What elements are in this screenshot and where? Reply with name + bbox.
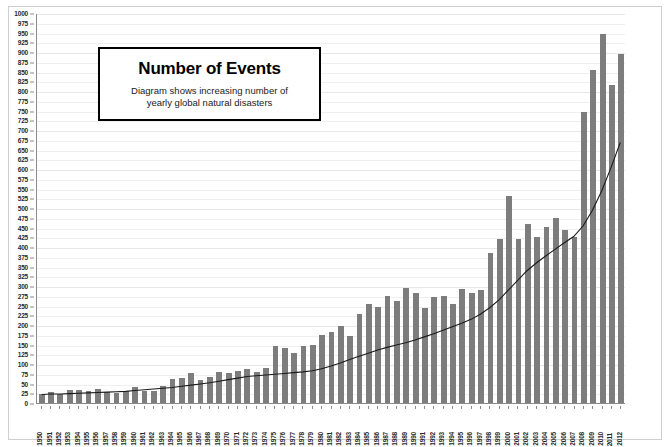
x-axis-tick-mark — [237, 406, 238, 409]
x-axis-tick-label: 1952 — [56, 432, 63, 446]
y-axis-tick-mark — [30, 92, 34, 93]
x-axis-tick-label: 1996 — [467, 432, 474, 446]
y-axis-tick-mark — [30, 296, 34, 297]
x-axis-tick-label: 2010 — [598, 432, 605, 446]
y-axis-tick-label: 25 — [21, 391, 28, 398]
y-axis-tick-mark — [30, 384, 34, 385]
x-axis-tick-label: 2006 — [561, 432, 568, 446]
y-axis-tick-mark — [30, 238, 34, 239]
x-axis-tick-label: 1998 — [486, 432, 493, 446]
y-axis-tick-label: 225 — [18, 313, 28, 320]
y-axis-tick-mark — [30, 287, 34, 288]
y-axis-tick-label: 375 — [18, 255, 28, 262]
x-axis-tick-label: 1956 — [93, 432, 100, 446]
y-axis-tick-label: 850 — [18, 69, 28, 76]
x-axis-tick-mark — [69, 406, 70, 409]
page-title: Number of Events — [138, 59, 280, 79]
x-axis-tick-mark — [50, 406, 51, 409]
y-axis-tick-label: 175 — [18, 333, 28, 340]
x-axis-tick-mark — [415, 406, 416, 409]
y-axis-tick-label: 525 — [18, 196, 28, 203]
y-axis-tick-mark — [30, 111, 34, 112]
x-axis-tick-mark — [546, 406, 547, 409]
x-axis-tick-mark — [125, 406, 126, 409]
x-axis-tick-label: 1961 — [140, 432, 147, 446]
x-axis-tick-mark — [517, 406, 518, 409]
x-axis-tick-mark — [293, 406, 294, 409]
y-axis-tick-mark — [30, 199, 34, 200]
y-axis-tick-mark — [30, 72, 34, 73]
x-axis-tick-label: 2000 — [505, 432, 512, 446]
x-axis-tick-mark — [321, 406, 322, 409]
y-axis-tick-mark — [30, 53, 34, 54]
x-axis-tick-label: 1991 — [420, 432, 427, 446]
y-axis-tick-mark — [30, 33, 34, 34]
x-axis-tick-label: 1995 — [458, 432, 465, 446]
y-axis-tick-label: 775 — [18, 99, 28, 106]
x-axis-tick-label: 1983 — [346, 432, 353, 446]
y-axis-tick-mark — [30, 14, 34, 15]
y-axis-tick-mark — [30, 277, 34, 278]
x-axis-tick-label: 2011 — [607, 433, 614, 446]
y-axis-tick-mark — [30, 267, 34, 268]
x-axis-tick-mark — [602, 406, 603, 409]
x-axis-tick-label: 1974 — [262, 432, 269, 446]
x-axis-tick-label: 1951 — [47, 432, 54, 446]
y-axis-tick-mark — [30, 218, 34, 219]
y-axis-tick-label: 400 — [18, 245, 28, 252]
x-axis-tick-label: 1955 — [84, 432, 91, 446]
y-axis-tick-label: 675 — [18, 138, 28, 145]
x-axis-tick-label: 1993 — [439, 432, 446, 446]
x-axis-tick-mark — [461, 406, 462, 409]
x-axis-tick-mark — [387, 406, 388, 409]
title-subtitle-line2: yearly global natural disasters — [147, 97, 273, 108]
x-axis-tick-label: 1971 — [234, 432, 241, 446]
y-axis-tick-label: 600 — [18, 167, 28, 174]
x-axis-tick-mark — [340, 406, 341, 409]
y-axis-tick-mark — [30, 179, 34, 180]
y-axis-tick-mark — [30, 365, 34, 366]
x-axis-tick-mark — [396, 406, 397, 409]
y-axis-tick-label: 150 — [18, 342, 28, 349]
x-axis-tick-label: 1997 — [477, 432, 484, 446]
x-axis-tick-label: 1959 — [121, 432, 128, 446]
y-axis-tick-label: 250 — [18, 303, 28, 310]
y-axis-tick-mark — [30, 209, 34, 210]
y-axis-tick-label: 900 — [18, 50, 28, 57]
y-axis-tick-label: 825 — [18, 79, 28, 86]
x-axis-tick-label: 1975 — [271, 432, 278, 446]
x-axis-tick-label: 1987 — [383, 432, 390, 446]
y-axis-tick-mark — [30, 326, 34, 327]
y-axis-tick-mark — [30, 248, 34, 249]
x-axis-tick-label: 2012 — [617, 432, 624, 446]
x-axis-tick-mark — [471, 406, 472, 409]
x-axis-tick-mark — [536, 406, 537, 409]
x-axis-tick-label: 1986 — [374, 432, 381, 446]
x-axis-tick-mark — [359, 406, 360, 409]
x-axis: 1950195119521953195419551956195719581959… — [36, 406, 625, 446]
y-axis-tick-mark — [30, 160, 34, 161]
y-axis-tick-mark — [30, 150, 34, 151]
title-box: Number of Events Diagram shows increasin… — [98, 47, 321, 121]
x-axis-tick-mark — [620, 406, 621, 409]
x-axis-tick-label: 1989 — [402, 432, 409, 446]
x-axis-tick-label: 1950 — [37, 432, 44, 446]
y-axis-tick-mark — [30, 394, 34, 395]
x-axis-tick-mark — [443, 406, 444, 409]
x-axis-tick-mark — [144, 406, 145, 409]
x-axis-tick-mark — [583, 406, 584, 409]
x-axis-tick-mark — [433, 406, 434, 409]
y-axis-tick-mark — [30, 170, 34, 171]
x-axis-tick-mark — [59, 406, 60, 409]
x-axis-tick-label: 2002 — [523, 432, 530, 446]
x-axis-tick-label: 1973 — [252, 432, 259, 446]
x-axis-tick-label: 1977 — [290, 432, 297, 446]
y-axis-tick-label: 550 — [18, 186, 28, 193]
y-axis-tick-mark — [30, 62, 34, 63]
y-axis-tick-label: 100 — [18, 362, 28, 369]
y-axis-tick-label: 300 — [18, 284, 28, 291]
x-axis-tick-label: 1982 — [336, 432, 343, 446]
x-axis-tick-label: 1976 — [280, 432, 287, 446]
y-axis-tick-mark — [30, 404, 34, 405]
x-axis-tick-label: 2008 — [579, 432, 586, 446]
